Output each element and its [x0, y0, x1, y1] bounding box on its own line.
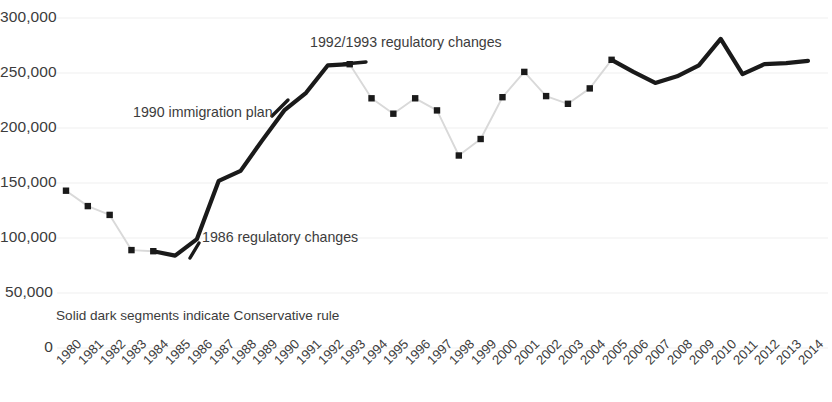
y-axis-tick-label: 300,000	[0, 8, 53, 26]
data-point-marker	[412, 95, 418, 101]
data-point-marker	[128, 247, 134, 253]
annotation-1986-regulatory-changes: 1986 regulatory changes	[202, 229, 358, 245]
data-point-marker	[521, 69, 527, 75]
data-point-marker	[390, 111, 396, 117]
y-axis-tick-label: 50,000	[0, 283, 53, 301]
data-point-marker	[150, 248, 156, 254]
data-point-marker	[456, 152, 462, 158]
dark-segment-2005-2014	[612, 39, 808, 83]
light-segment-1980-1984	[66, 191, 153, 252]
y-axis-tick-label: 0	[0, 338, 53, 356]
y-axis-tick-label: 200,000	[0, 118, 53, 136]
data-point-marker	[587, 85, 593, 91]
data-point-marker	[368, 95, 374, 101]
data-point-marker	[477, 136, 483, 142]
y-axis-tick-label: 250,000	[0, 63, 53, 81]
data-point-marker	[434, 107, 440, 113]
data-point-marker	[499, 94, 505, 100]
leader-line-1992	[344, 62, 366, 64]
data-point-marker	[85, 203, 91, 209]
dark-segment-1984-1993	[153, 64, 349, 255]
immigration-line-chart: 300,000250,000200,000150,000100,00050,00…	[0, 0, 832, 402]
data-point-marker	[608, 57, 614, 63]
annotation-1992-1993-regulatory-changes: 1992/1993 regulatory changes	[310, 34, 502, 50]
data-point-markers	[63, 57, 615, 255]
y-axis-tick-label: 150,000	[0, 173, 53, 191]
gridlines	[57, 18, 828, 348]
data-series	[66, 39, 808, 256]
legend-caption-conservative-rule: Solid dark segments indicate Conservativ…	[56, 308, 339, 323]
data-point-marker	[63, 188, 69, 194]
annotation-1990-immigration-plan: 1990 immigration plan	[133, 104, 273, 120]
data-point-marker	[106, 212, 112, 218]
data-point-marker	[543, 93, 549, 99]
data-point-marker	[565, 101, 571, 107]
y-axis-tick-label: 100,000	[0, 228, 53, 246]
